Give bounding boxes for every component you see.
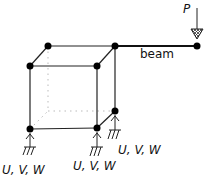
frame-drawing	[0, 0, 206, 181]
frame-diagram: P beam U, V, W U, V, W U, V, W	[0, 0, 206, 181]
support-icon-front-right	[90, 132, 103, 156]
hidden-edges	[30, 46, 115, 129]
support-label-back-right: U, V, W	[118, 143, 161, 157]
beam-label: beam	[140, 47, 174, 61]
support-icon-front-left	[23, 133, 36, 155]
support-icon-back-right	[108, 115, 121, 139]
load-arrow-icon	[191, 8, 203, 39]
nodes	[27, 43, 201, 133]
load-label: P	[183, 2, 190, 16]
support-label-front-left: U, V, W	[2, 163, 45, 177]
support-label-front-right: U, V, W	[73, 159, 116, 173]
